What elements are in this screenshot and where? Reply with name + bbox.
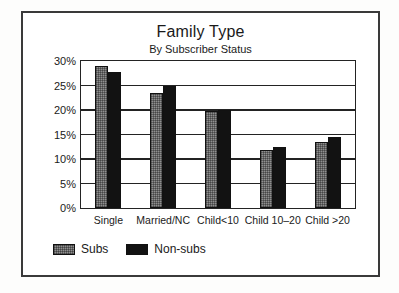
bar-group: Married/NC	[136, 61, 191, 208]
x-axis-tick-label: Married/NC	[136, 214, 190, 226]
figure-frame: Family Type By Subscriber Status 0%5%10%…	[21, 11, 380, 277]
bar-non-subs	[273, 147, 286, 208]
x-axis-tick-label: Single	[94, 214, 123, 226]
x-axis-tick-label: Child<10	[197, 214, 239, 226]
x-axis-tick-label: Child >20	[305, 214, 350, 226]
bar-subs	[95, 66, 108, 208]
y-axis-tick-label: 0%	[60, 202, 76, 214]
chart-legend: SubsNon-subs	[53, 243, 215, 255]
y-axis-tick-label: 15%	[54, 129, 76, 141]
bar-subs	[205, 111, 218, 208]
y-axis-tick-label: 20%	[54, 104, 76, 116]
chart-subtitle: By Subscriber Status	[23, 42, 378, 56]
x-axis-tick-label: Child 10–20	[245, 214, 301, 226]
legend-label: Subs	[81, 243, 108, 255]
y-axis-tick-label: 5%	[60, 178, 76, 190]
chart-title: Family Type	[23, 23, 378, 41]
plot-area: 0%5%10%15%20%25%30%SingleMarried/NCChild…	[80, 60, 356, 209]
bar-subs	[150, 93, 163, 208]
bar-subs	[315, 142, 328, 208]
bar-non-subs	[218, 110, 231, 208]
bar-subs	[260, 150, 273, 208]
legend-label: Non-subs	[154, 243, 205, 255]
legend-entry: Subs	[53, 243, 108, 255]
y-axis-tick-label: 10%	[54, 153, 76, 165]
legend-swatch-subs	[53, 244, 75, 255]
title-block: Family Type By Subscriber Status	[23, 23, 378, 56]
bar-group: Single	[81, 61, 136, 208]
y-axis-tick-label: 30%	[54, 55, 76, 67]
bar-group: Child 10–20	[245, 61, 300, 208]
legend-swatch-non-subs	[126, 244, 148, 255]
bar-group: Child<10	[191, 61, 246, 208]
y-axis-tick-label: 25%	[54, 80, 76, 92]
legend-entry: Non-subs	[126, 243, 205, 255]
bar-non-subs	[163, 86, 176, 209]
bar-group: Child >20	[300, 61, 355, 208]
bar-non-subs	[328, 137, 341, 208]
bar-non-subs	[108, 72, 121, 208]
chart-page: Family Type By Subscriber Status 0%5%10%…	[0, 0, 399, 293]
